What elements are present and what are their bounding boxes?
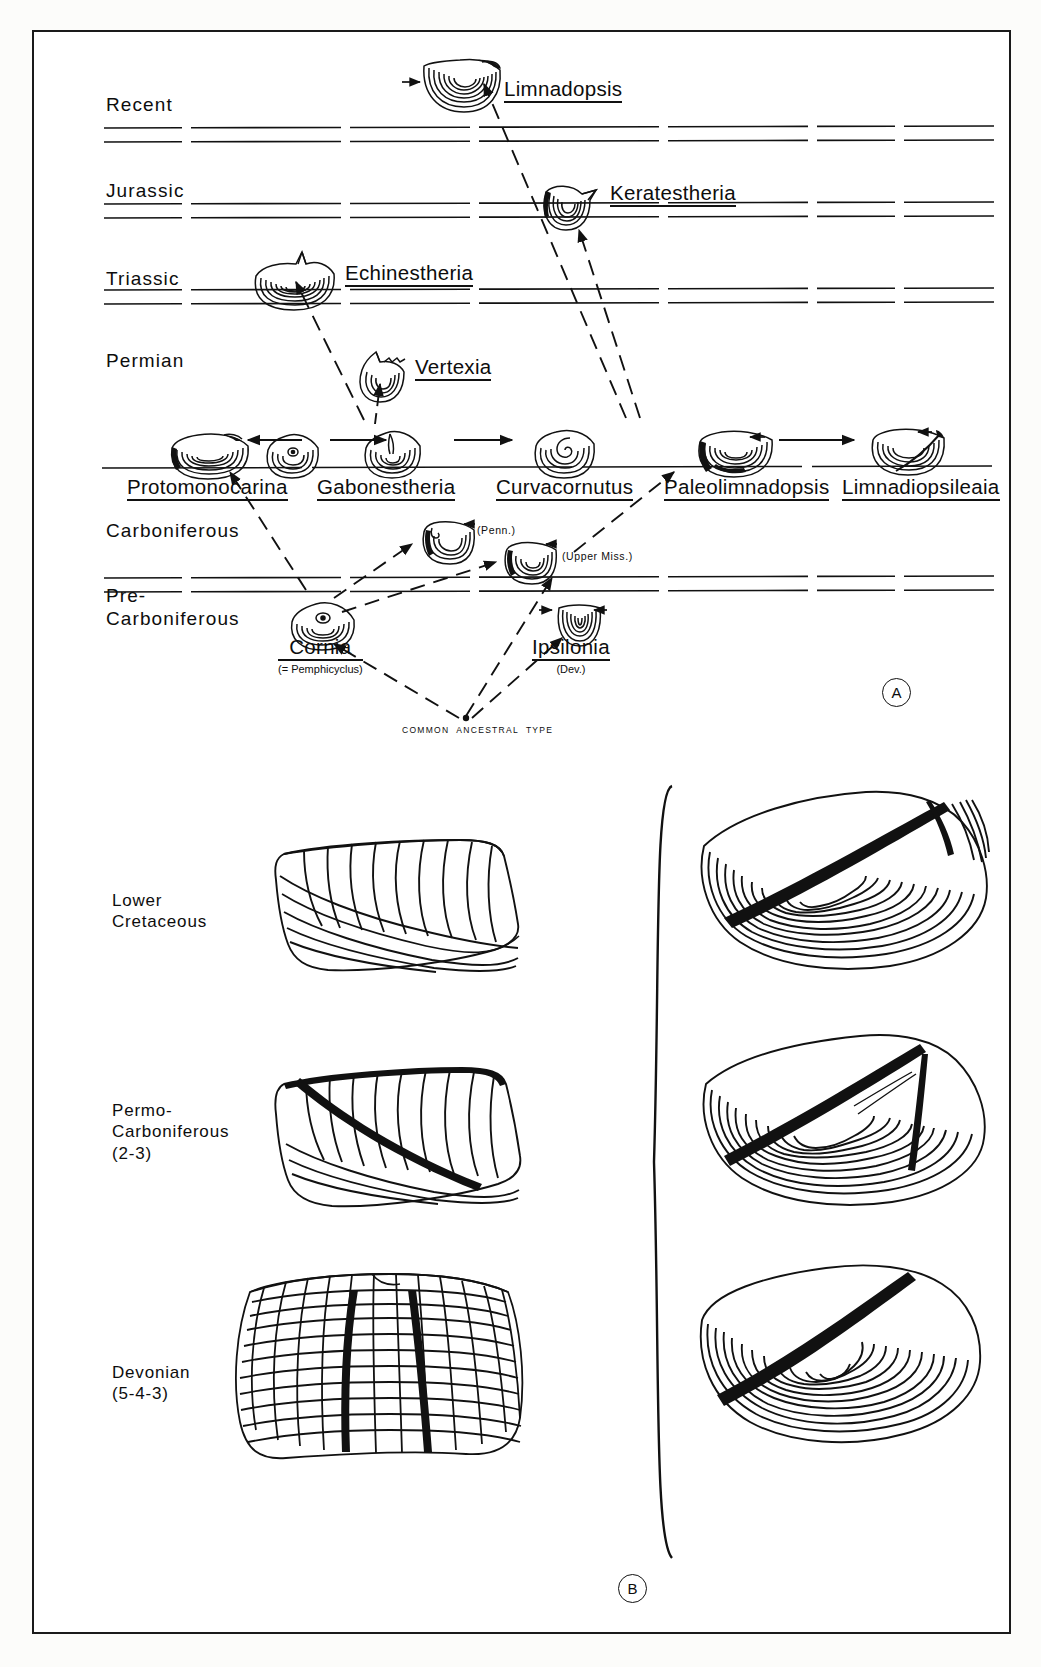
taxon-label-keratestheria: Keratestheria (610, 182, 736, 207)
panel-a: Recent Jurassic Triassic Permian Carboni… (34, 32, 1005, 762)
taxon-label-gabonestheria: Gabonestheria (317, 476, 455, 501)
figure-plate-border: Recent Jurassic Triassic Permian Carboni… (32, 30, 1011, 1634)
taxon-age-ipsilonia: (Dev.) (532, 663, 610, 675)
taxon-label-ipsilonia: Ipsilonia (532, 636, 610, 661)
row-label-devonian: Devonian (5-4-3) (112, 1362, 190, 1405)
taxon-label-echinestheria: Echinestheria (345, 262, 473, 287)
panel-b: Lower Cretaceous Permo- Carboniferous (2… (34, 762, 1005, 1622)
age-annotation-pennsylvanian: (Penn.) (477, 524, 516, 536)
shell-vertexia (354, 350, 416, 406)
taxon-synonym-cornia: (= Pemphicyclus) (278, 663, 363, 675)
taxon-label-cornia: Cornia (278, 636, 363, 661)
taxon-label-curvacornutus: Curvacornutus (496, 476, 633, 501)
shell-lower-cretaceous-left (270, 832, 530, 982)
taxon-label-protomonocarina: Protomonocarina (127, 476, 288, 501)
shell-permo-carboniferous-left (270, 1058, 532, 1218)
taxon-group-ipsilonia: Ipsilonia (Dev.) (532, 636, 610, 675)
shell-paleolimnadopsis (694, 426, 778, 480)
taxon-label-limnadiopsileaia: Limnadiopsileaia (842, 476, 1000, 501)
shell-limnadiopsileaia (868, 424, 950, 478)
panel-letter-b: B (618, 1574, 647, 1603)
column-brace (634, 782, 678, 1562)
shell-limnadopsis (420, 54, 506, 116)
shell-gabonestheria (360, 422, 428, 482)
figure-page: Recent Jurassic Triassic Permian Carboni… (0, 0, 1041, 1667)
row-label-permo-carboniferous: Permo- Carboniferous (2-3) (112, 1100, 229, 1164)
panel-letter-a: A (882, 678, 911, 707)
taxon-label-vertexia: Vertexia (415, 356, 491, 381)
shell-pennsylvanian (418, 516, 480, 568)
shell-intermediate-plain (262, 426, 324, 482)
lineage-arrows (34, 32, 1005, 762)
shell-devonian-right (690, 1262, 990, 1452)
age-annotation-upper-mississippian: (Upper Miss.) (562, 550, 633, 562)
row-label-lower-cretaceous: Lower Cretaceous (112, 890, 207, 933)
shell-protomonocarina (168, 428, 254, 482)
shell-curvacornutus (530, 424, 602, 482)
shell-keratestheria (538, 178, 602, 236)
shell-lower-cretaceous-right (694, 786, 994, 986)
taxon-label-limnadopsis: Limnadopsis (504, 78, 622, 103)
common-ancestor-label: COMMON ANCESTRAL TYPE (402, 725, 553, 735)
shell-echinestheria (250, 250, 344, 314)
shell-permo-carboniferous-right (694, 1028, 990, 1218)
shell-upper-mississippian (500, 538, 562, 588)
shell-devonian-left (230, 1272, 526, 1464)
taxon-label-paleolimnadopsis: Paleolimnadopsis (664, 476, 829, 501)
taxon-group-cornia: Cornia (= Pemphicyclus) (278, 636, 363, 675)
